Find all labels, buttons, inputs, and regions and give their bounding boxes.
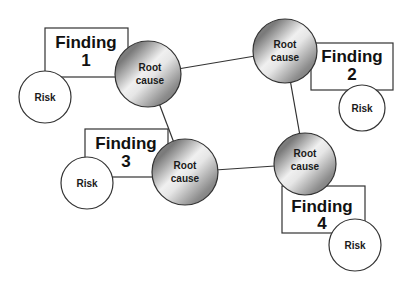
finding-number-4: 4 <box>317 214 327 233</box>
root-cause-network-diagram: Finding 1 Risk Finding 2 Risk Finding 3 … <box>0 0 413 287</box>
finding-number-1: 1 <box>81 51 90 70</box>
root-cause-node-3: Root cause <box>152 139 218 205</box>
finding-label-3: Finding <box>95 134 156 153</box>
root-cause-label-2b: cause <box>271 52 300 63</box>
risk-label-3: Risk <box>76 178 98 189</box>
root-cause-label-4a: Root <box>294 148 317 159</box>
risk-label-1: Risk <box>34 92 56 103</box>
risk-label-4: Risk <box>344 240 366 251</box>
root-cause-label-2a: Root <box>274 39 297 50</box>
root-cause-label-1a: Root <box>139 62 162 73</box>
root-cause-node-4: Root cause <box>274 133 336 195</box>
finding-number-3: 3 <box>121 152 130 171</box>
finding-group-2: Finding 2 Risk <box>311 43 393 131</box>
root-cause-sphere-1 <box>115 41 181 107</box>
root-cause-node-2: Root cause <box>253 19 317 83</box>
root-cause-node-1: Root cause <box>115 41 181 107</box>
root-cause-sphere-2 <box>253 19 317 83</box>
finding-label-2: Finding <box>321 47 382 66</box>
risk-label-2: Risk <box>351 103 373 114</box>
finding-group-1: Finding 1 Risk <box>19 28 128 123</box>
root-cause-sphere-3 <box>152 139 218 205</box>
root-cause-label-1b: cause <box>136 75 165 86</box>
finding-group-4: Finding 4 Risk <box>282 186 381 271</box>
finding-label-1: Finding <box>55 33 116 52</box>
root-cause-label-3b: cause <box>171 173 200 184</box>
finding-number-2: 2 <box>347 65 356 84</box>
root-cause-label-4b: cause <box>291 161 320 172</box>
root-cause-label-3a: Root <box>174 160 197 171</box>
